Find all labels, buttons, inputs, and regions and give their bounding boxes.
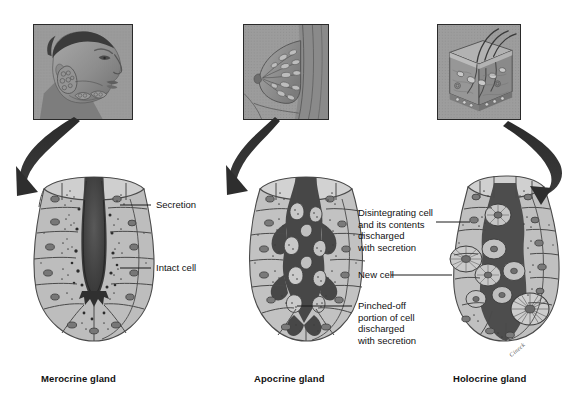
apocrine-gland-diagram	[234, 163, 374, 355]
caption-apocrine-gland: Apocrine gland	[254, 373, 325, 384]
head-salivary-gland-photo	[33, 24, 133, 120]
figure-canvas: Secretion Intact cell Disintegrating cel…	[0, 0, 580, 416]
skin-sebaceous-gland-illustration	[438, 25, 520, 119]
callout-pinched-off-portion: Pinched-off portion of cell discharged w…	[358, 300, 438, 346]
callout-intact-cell: Intact cell	[156, 262, 196, 274]
callout-secretion: Secretion	[156, 199, 196, 211]
breast-mammary-gland-photo	[243, 24, 329, 120]
head-salivary-gland-illustration	[34, 25, 132, 119]
callout-disintegrating-cell: Disintegrating cell and its contents dis…	[358, 207, 438, 253]
merocrine-gland-diagram	[22, 163, 166, 355]
holocrine-gland-svg	[432, 163, 572, 355]
caption-merocrine-gland: Merocrine gland	[41, 373, 116, 384]
callout-new-cell: New cell	[358, 269, 394, 281]
apocrine-gland-svg	[234, 163, 374, 355]
holocrine-gland-diagram	[432, 163, 572, 355]
merocrine-gland-svg	[22, 163, 166, 355]
skin-sebaceous-gland-photo	[437, 24, 521, 120]
caption-holocrine-gland: Holocrine gland	[453, 373, 526, 384]
breast-mammary-gland-illustration	[244, 25, 328, 119]
